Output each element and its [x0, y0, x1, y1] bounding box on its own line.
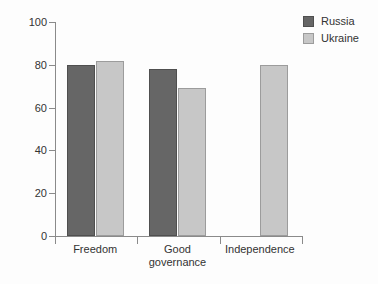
- bar-ukraine-freedom: [96, 61, 124, 236]
- x-axis-tick: [302, 236, 303, 244]
- legend-item-ukraine: Ukraine: [303, 32, 359, 44]
- y-axis: [55, 22, 56, 236]
- category-label-independence: Independence: [218, 243, 302, 256]
- x-axis: [55, 236, 303, 237]
- y-tick-label: 0: [14, 230, 47, 242]
- legend-label-ukraine: Ukraine: [321, 32, 359, 44]
- y-tick-label: 20: [14, 187, 47, 199]
- y-axis-tick: [49, 65, 55, 66]
- chart-page: { "chart_data": { "type": "bar", "catego…: [0, 0, 378, 284]
- bar-russia-good-governance: [149, 69, 177, 236]
- legend: Russia Ukraine: [303, 15, 359, 44]
- legend-item-russia: Russia: [303, 15, 359, 27]
- legend-swatch-russia: [303, 16, 314, 27]
- y-tick-label: 60: [14, 102, 47, 114]
- y-axis-tick: [49, 150, 55, 151]
- y-tick-label: 40: [14, 144, 47, 156]
- legend-swatch-ukraine: [303, 33, 314, 44]
- bar-ukraine-independence: [260, 65, 288, 236]
- y-tick-label: 80: [14, 59, 47, 71]
- y-axis-tick: [49, 22, 55, 23]
- category-label-freedom: Freedom: [53, 243, 137, 256]
- legend-label-russia: Russia: [321, 15, 355, 27]
- y-axis-tick: [49, 193, 55, 194]
- bar-russia-freedom: [67, 65, 95, 236]
- y-tick-label: 100: [14, 16, 47, 28]
- category-label-good-governance: Good governance: [136, 243, 220, 269]
- y-axis-tick: [49, 108, 55, 109]
- bar-ukraine-good-governance: [178, 88, 206, 236]
